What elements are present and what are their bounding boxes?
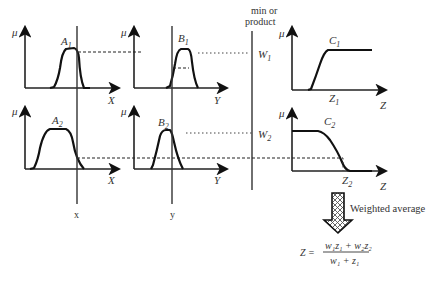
formula-lhs: Z =: [300, 247, 315, 258]
mu-label: μ: [120, 26, 127, 38]
operator-label-line2: product: [245, 16, 276, 27]
set-label-a1: A1: [60, 35, 72, 50]
operator-label-line1: min or: [251, 5, 278, 16]
fuzzy-inference-diagram: μ X A1 μ Y B1 min or product W1 W2 μ C1 …: [0, 0, 434, 281]
formula-numerator: w₁z₁ + w₂z₂: [325, 240, 372, 251]
panel-b1: μ Y B1: [120, 26, 250, 106]
mu-label: μ: [120, 105, 127, 117]
z-axis-label: Z: [380, 180, 387, 192]
weight-label-w1: W1: [258, 48, 271, 63]
set-label-c1: C1: [329, 34, 340, 49]
set-label-a2: A2: [51, 114, 63, 129]
panel-c2: μ C2 Z2 Z: [252, 107, 387, 192]
set-label-b2: B2: [158, 116, 169, 131]
membership-curve-c1: [308, 50, 372, 90]
weight-label-w2: W2: [258, 128, 271, 143]
output-value-z1: Z1: [329, 92, 339, 107]
membership-curve-b1: [166, 49, 198, 88]
mu-label: μ: [11, 105, 18, 117]
panel-b2: μ Y B2: [120, 105, 252, 186]
output-value-z2: Z2: [342, 174, 352, 189]
set-label-c2: C2: [324, 115, 335, 130]
panel-c1: μ C1 Z1 Z: [278, 27, 387, 111]
set-label-b1: B1: [178, 32, 189, 47]
membership-curve-b2: [151, 130, 183, 169]
crisp-x-label: x: [74, 209, 79, 220]
z-axis-label: Z: [380, 99, 387, 111]
crisp-input-y: y: [170, 26, 175, 220]
y-axis-label: Y: [214, 94, 222, 106]
x-axis-label: X: [107, 94, 116, 106]
mu-label: μ: [278, 27, 285, 39]
min-or-product-operator: min or product W1 W2: [245, 5, 278, 190]
formula-denominator: w₁ + z₁: [330, 255, 359, 266]
down-arrow-icon: [324, 193, 352, 233]
mu-label: μ: [278, 107, 285, 119]
weighted-average-formula: Z = w₁z₁ + w₂z₂ w₁ + z₁: [300, 240, 372, 266]
membership-curve-c2: [292, 131, 372, 171]
mu-label: μ: [11, 26, 18, 38]
x-axis-label: X: [107, 174, 116, 186]
membership-curve-a1: [50, 48, 90, 88]
membership-curve-a2: [30, 129, 84, 169]
y-axis-label: Y: [214, 174, 222, 186]
weighted-average-label: Weighted average: [350, 203, 426, 214]
crisp-y-label: y: [170, 209, 175, 220]
defuzzification-arrow: Weighted average: [324, 193, 426, 233]
